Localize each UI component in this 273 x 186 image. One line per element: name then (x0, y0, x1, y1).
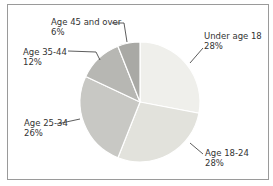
label-name: Age 45 and over (51, 17, 121, 27)
label-value: 12% (23, 57, 67, 67)
label-value: 28% (204, 41, 262, 51)
label-value: 6% (51, 27, 121, 37)
leader-line (68, 51, 100, 60)
label-25-34: Age 25-34 26% (24, 118, 68, 138)
label-name: Under age 18 (204, 31, 262, 41)
label-name: Age 25-34 (24, 118, 68, 128)
label-under-18: Under age 18 28% (204, 31, 262, 51)
label-45-over: Age 45 and over 6% (51, 17, 121, 37)
label-name: Age 18-24 (205, 148, 249, 158)
label-name: Age 35-44 (23, 47, 67, 57)
label-value: 28% (205, 158, 249, 168)
leader-line (190, 143, 203, 154)
pie-slice (140, 42, 200, 113)
label-value: 26% (24, 128, 68, 138)
leader-line (190, 48, 203, 63)
label-35-44: Age 35-44 12% (23, 47, 67, 67)
label-18-24: Age 18-24 28% (205, 148, 249, 168)
